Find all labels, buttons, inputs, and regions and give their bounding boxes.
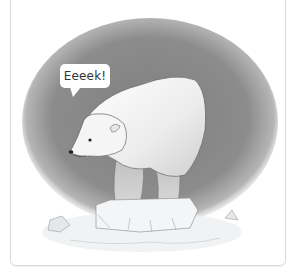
speech-bubble-text: Eeeek! bbox=[64, 69, 107, 83]
speech-bubble: Eeeek! bbox=[60, 64, 110, 88]
polar-bear-illustration bbox=[0, 0, 298, 274]
speech-bubble-tail bbox=[70, 87, 81, 97]
